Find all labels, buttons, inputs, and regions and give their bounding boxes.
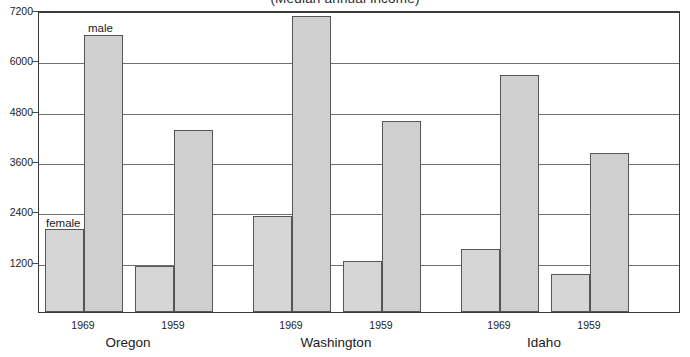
x-axis-year-label: 1969: [487, 319, 510, 331]
y-axis: 120024003600480060007200: [0, 0, 38, 357]
x-axis-group-label: Idaho: [527, 335, 561, 350]
annotation-female: female: [46, 217, 81, 229]
bar-female: [253, 216, 292, 312]
y-axis-tick-label: 1200: [10, 257, 33, 269]
bar-female: [461, 249, 500, 312]
y-axis-tick-label: 4800: [10, 106, 33, 118]
bar-male: [292, 16, 331, 312]
bar-male: [382, 121, 421, 312]
chart-container: (Median annual income) 12002400360048006…: [0, 0, 690, 357]
gridline: [39, 114, 679, 115]
chart-title: (Median annual income): [0, 0, 690, 6]
bar-male: [84, 35, 123, 312]
gridline: [39, 164, 679, 165]
y-axis-tick-label: 2400: [10, 206, 33, 218]
bar-male: [174, 130, 213, 312]
gridline: [39, 63, 679, 64]
x-axis-year-label: 1969: [71, 319, 94, 331]
y-axis-tick-label: 6000: [10, 55, 33, 67]
bar-female: [135, 266, 174, 312]
bar-female: [45, 229, 84, 312]
x-axis-year-label: 1959: [577, 319, 600, 331]
x-axis-group-label: Oregon: [105, 335, 150, 350]
bar-male: [590, 153, 629, 312]
bar-female: [551, 274, 590, 312]
plot-area: femalemale: [38, 11, 680, 313]
annotation-male: male: [88, 22, 113, 34]
y-axis-tick-label: 3600: [10, 156, 33, 168]
x-axis: 196919591969195919691959OregonWashington…: [38, 313, 680, 357]
x-axis-group-label: Washington: [301, 335, 372, 350]
bar-male: [500, 75, 539, 312]
gridline: [39, 214, 679, 215]
y-axis-tick-label: 7200: [10, 5, 33, 17]
x-axis-year-label: 1959: [161, 319, 184, 331]
x-axis-year-label: 1969: [279, 319, 302, 331]
bar-female: [343, 261, 382, 312]
x-axis-year-label: 1959: [369, 319, 392, 331]
